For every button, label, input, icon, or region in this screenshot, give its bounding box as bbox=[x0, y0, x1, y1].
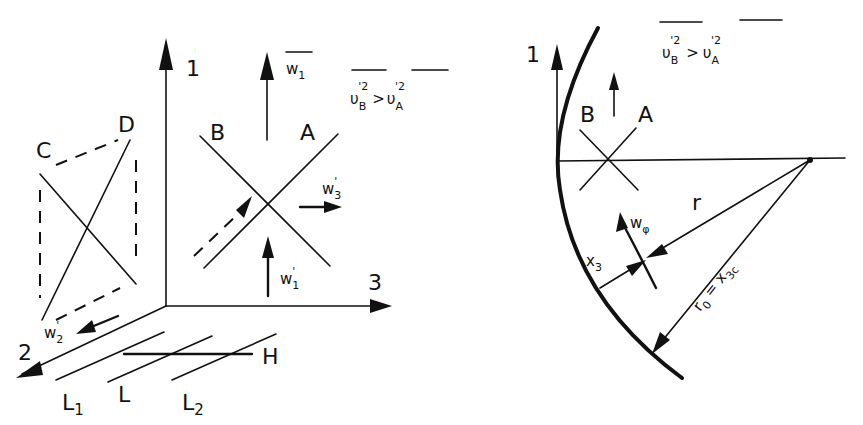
dashed-square-cd: C D bbox=[36, 112, 136, 320]
w1-bar-arrowhead-icon bbox=[260, 52, 274, 80]
label-c: C bbox=[36, 138, 51, 163]
label-l2: L2 bbox=[182, 390, 204, 419]
right-axis-1-arrowhead-icon bbox=[551, 44, 563, 70]
inequality-right-text: υB'2>υA'2 bbox=[662, 34, 721, 67]
w1-prime-arrowhead-icon bbox=[262, 236, 274, 258]
axis-2-label: 2 bbox=[18, 340, 32, 365]
right-diagram: 1 B A υB'2>υA'2 r r0 = x3c x3 wφ bbox=[526, 20, 845, 378]
vector-w1-prime: w1' bbox=[262, 236, 299, 296]
curved-wall bbox=[558, 28, 682, 378]
label-x3: x3 bbox=[586, 252, 602, 274]
cross-in-square bbox=[40, 140, 136, 320]
axis-3-label: 3 bbox=[368, 270, 382, 295]
label-b: B bbox=[210, 120, 225, 145]
label-h: H bbox=[262, 344, 279, 369]
right-axis-1-label: 1 bbox=[526, 42, 540, 67]
w1-prime-label: w1' bbox=[280, 265, 299, 292]
right-label-b: B bbox=[580, 102, 595, 127]
right-label-a: A bbox=[638, 102, 653, 127]
w2-arrowhead-icon bbox=[76, 320, 96, 334]
left-diagram: 1 3 2 C D bbox=[16, 38, 448, 419]
axis-3-arrowhead-icon bbox=[370, 299, 392, 313]
axis-3: 3 bbox=[166, 270, 392, 313]
right-up-arrowhead-icon bbox=[609, 72, 619, 90]
axis-2: 2 bbox=[16, 306, 166, 378]
dashed-vector-2 bbox=[194, 196, 252, 256]
label-w-phi: wφ bbox=[630, 214, 650, 236]
axis-1-arrowhead-icon bbox=[159, 38, 173, 70]
w1-bar-label: w1 bbox=[286, 60, 305, 82]
vector-w2-prime: w2' bbox=[44, 316, 118, 346]
label-l: L bbox=[118, 382, 131, 407]
label-r0: r0 = x3c bbox=[689, 258, 742, 317]
inequality-left: υB'2>υA'2 bbox=[350, 70, 448, 113]
label-l1: L1 bbox=[62, 390, 84, 419]
inequality-left-text: υB'2>υA'2 bbox=[350, 80, 405, 113]
dashed-arrowhead-icon bbox=[236, 196, 252, 218]
vector-w3-prime: w3' bbox=[300, 175, 342, 213]
diagram-canvas: 1 3 2 C D bbox=[0, 0, 863, 425]
label-a: A bbox=[300, 120, 315, 145]
plane-lines: L1 L L2 H bbox=[56, 332, 279, 419]
label-r: r bbox=[692, 190, 702, 215]
axis-1: 1 bbox=[159, 38, 200, 306]
w2-label: w2' bbox=[44, 319, 63, 346]
w3-arrowhead-icon bbox=[324, 201, 342, 213]
label-d: D bbox=[118, 112, 135, 137]
axis-1-label: 1 bbox=[186, 56, 200, 81]
w3-label: w3' bbox=[322, 175, 341, 202]
